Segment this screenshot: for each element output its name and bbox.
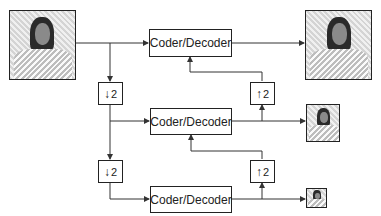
up-arrow-icon: ↑ bbox=[256, 165, 262, 179]
output-image-half bbox=[306, 104, 340, 142]
coder-decoder-level-1: Coder/Decoder bbox=[149, 29, 232, 57]
output-image-quarter bbox=[306, 188, 327, 208]
output-image-full bbox=[305, 10, 372, 80]
up-arrow-icon: ↑ bbox=[256, 87, 262, 101]
downsample-factor: 2 bbox=[111, 88, 117, 100]
down-arrow-icon: ↓ bbox=[104, 87, 110, 101]
coder-label: Coder/Decoder bbox=[150, 36, 231, 50]
coder-label: Coder/Decoder bbox=[150, 193, 231, 207]
upsample-box-1: ↑ 2 bbox=[250, 82, 275, 105]
downsample-box-1: ↓ 2 bbox=[98, 82, 123, 105]
down-arrow-icon: ↓ bbox=[104, 165, 110, 179]
upsample-factor: 2 bbox=[263, 88, 269, 100]
upsample-box-2: ↑ 2 bbox=[250, 160, 275, 183]
upsample-factor: 2 bbox=[263, 166, 269, 178]
downsample-factor: 2 bbox=[111, 166, 117, 178]
input-image bbox=[9, 10, 76, 80]
downsample-box-2: ↓ 2 bbox=[98, 160, 123, 183]
coder-decoder-level-3: Coder/Decoder bbox=[150, 186, 232, 213]
coder-decoder-level-2: Coder/Decoder bbox=[150, 108, 232, 135]
coder-label: Coder/Decoder bbox=[150, 115, 231, 129]
